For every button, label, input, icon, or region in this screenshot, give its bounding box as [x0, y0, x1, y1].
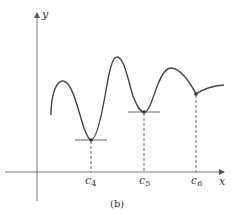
x-axis-label: x — [219, 175, 226, 188]
c5-label: c5 — [139, 174, 150, 188]
function-curve — [51, 57, 224, 140]
figure-caption: (b) — [110, 198, 124, 209]
y-axis-label: y — [41, 8, 49, 21]
function-graph: y x c4 c5 c6 (b) — [0, 0, 235, 222]
c4-label: c4 — [85, 174, 96, 188]
c6-label: c6 — [191, 174, 202, 188]
